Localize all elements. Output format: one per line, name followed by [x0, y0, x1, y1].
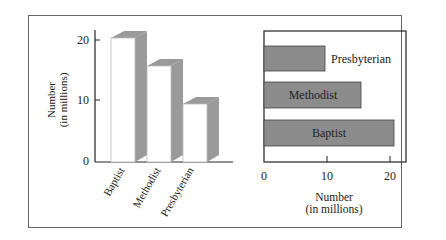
xtick-label-0: 0	[261, 169, 267, 183]
bar-label-presbyterian: Presbyterian	[331, 52, 391, 66]
bar-methodist-3d	[147, 59, 183, 162]
bar-presbyterian-3d	[183, 97, 219, 162]
bar-label-methodist: Methodist	[289, 88, 338, 102]
bar-baptist-3d	[111, 31, 147, 162]
ytick-label-0: 0	[83, 154, 89, 168]
xtick-label-20: 20	[384, 169, 396, 183]
bar-label-baptist: Baptist	[312, 126, 347, 140]
left-ylabel-line1: Number	[45, 82, 57, 118]
right-xlabel-line2: (in millions)	[305, 203, 362, 216]
charts-svg: Number (in millions) 20 10 0 Baptist Me	[0, 0, 446, 240]
left-y-axis-label: Number (in millions)	[45, 72, 70, 127]
bar-presbyterian	[264, 46, 325, 71]
xtick-label-10: 10	[321, 169, 333, 183]
xtick-label-presbyterian: Presbyterian	[158, 165, 196, 219]
right-xlabel-line1: Number	[315, 191, 353, 203]
xtick-label-methodist: Methodist	[130, 165, 163, 210]
right-chart: Presbyterian Methodist Baptist 0 10 20 N…	[261, 31, 406, 216]
ytick-label-20: 20	[77, 33, 89, 47]
ytick-label-10: 10	[77, 93, 89, 107]
left-ylabel-line2: (in millions)	[57, 72, 70, 127]
left-chart: Number (in millions) 20 10 0 Baptist Me	[45, 30, 233, 219]
xtick-label-baptist: Baptist	[101, 165, 127, 198]
